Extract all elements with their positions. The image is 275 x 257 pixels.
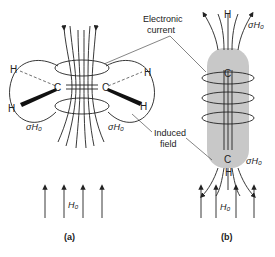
atom-h-bottom-left: H [8,103,15,114]
atom-h-top-left: H [10,64,17,75]
atom-c-left: C [54,82,61,93]
callout-induced-field: Induced field [132,114,212,160]
electron-loop-bottom [55,98,109,114]
shielding-label-right: σH₀ [108,122,124,132]
svg-text:Induced: Induced [154,128,186,138]
panel-a-ethylene: C C H H H H σH₀ σH₀ H₀ (a) [8,26,155,242]
shielding-label-bottom: σH₀ [246,156,262,166]
svg-text:Electronic: Electronic [143,14,183,24]
atom-h-top-right: H [144,67,151,78]
electron-loop-top [55,60,109,76]
bond-ch-top-left [20,71,56,86]
svg-text:current: current [147,25,176,35]
atom-c-top: C [224,68,231,79]
svg-text:field: field [160,139,177,149]
shielding-label-top: σH₀ [248,20,264,30]
atom-h-bottom-right: H [140,101,147,112]
panel-b-acetylene: H C C H σH₀ σH₀ H₀ (b) [201,9,264,242]
atom-c-bottom: C [224,154,231,165]
bond-ch-top-right [108,72,142,86]
anisotropy-diagram: C C H H H H σH₀ σH₀ H₀ (a) [0,0,275,257]
bond-ch-bottom-right [107,88,142,106]
panel-label-a: (a) [64,232,75,242]
panel-label-b: (b) [221,232,233,242]
atom-h-top: H [224,9,231,20]
applied-field-label-a: H₀ [68,200,78,210]
field-lines-a [58,26,104,148]
callout-electronic-current: Electronic current [104,14,206,72]
bond-ch-bottom-left [20,88,57,107]
atom-h-bottom: H [225,167,232,178]
applied-field-label-b: H₀ [220,202,230,212]
atom-c-right: C [102,82,109,93]
shielding-label-left: σH₀ [26,122,42,132]
